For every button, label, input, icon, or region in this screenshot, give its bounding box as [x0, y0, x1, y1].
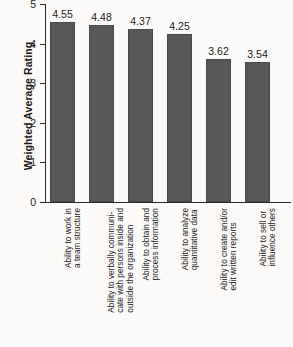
x-axis-label-line: process information [151, 208, 160, 280]
y-axis-tick-label: 2 [20, 118, 36, 128]
bar[interactable] [128, 29, 153, 202]
x-axis-label: Ability to work ina team structure [64, 208, 83, 268]
x-axis-label: Ability to obtain andprocess information [142, 208, 161, 280]
x-axis-label-line: edit written reports [229, 208, 238, 291]
bar[interactable] [89, 25, 114, 202]
x-axis-label-line: a team structure [73, 208, 82, 268]
x-axis-label: Ability to verbally communi-cate with pe… [107, 208, 135, 313]
x-axis-label: Ability to create and/oredit written rep… [220, 208, 239, 291]
y-axis-tick-label: 4 [20, 39, 36, 49]
bar-value-label: 3.54 [247, 48, 267, 60]
x-axis-label: Ability to analyzequantitative data [181, 208, 200, 270]
bar[interactable] [245, 62, 270, 202]
x-axis-label-line: outside the organization [126, 208, 135, 313]
bar-column[interactable]: 4.55 [50, 22, 75, 202]
x-axis-label: Ability to sell orinfluence others [259, 208, 278, 267]
y-axis-tick-label: 0 [20, 197, 36, 207]
bar-column[interactable]: 4.48 [89, 25, 114, 202]
bar[interactable] [167, 34, 192, 202]
x-axis-line [45, 202, 291, 203]
bar-column[interactable]: 4.25 [167, 34, 192, 202]
bar[interactable] [206, 59, 231, 202]
bar-value-label: 4.25 [169, 20, 189, 32]
bar-column[interactable]: 4.37 [128, 29, 153, 202]
bar-column[interactable]: 3.54 [245, 62, 270, 202]
y-axis-tick-label: 5 [20, 0, 36, 9]
plot-area: 4.554.484.374.253.623.54 [45, 4, 291, 202]
bar-value-label: 3.62 [208, 45, 228, 57]
x-axis-label-line: influence others [268, 208, 277, 267]
bar-chart: Weighted Average Rating 543210 4.554.484… [0, 0, 293, 347]
bar-column[interactable]: 3.62 [206, 59, 231, 202]
y-axis-tick-label: 3 [20, 78, 36, 88]
bar-value-label: 4.37 [130, 15, 150, 27]
bar-value-label: 4.48 [91, 11, 111, 23]
bar-value-label: 4.55 [52, 8, 72, 20]
y-axis-tick-label: 1 [20, 157, 36, 167]
bar[interactable] [50, 22, 75, 202]
x-axis-label-line: quantitative data [190, 208, 199, 270]
